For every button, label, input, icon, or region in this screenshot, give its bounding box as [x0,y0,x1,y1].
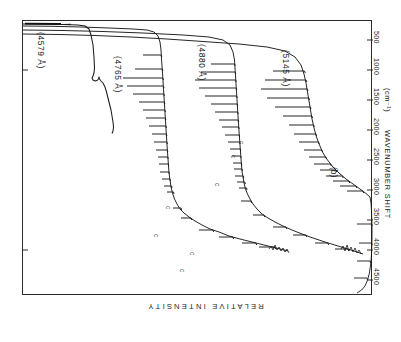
trace-4765 [23,26,288,251]
x-axis-units: (cm⁻¹) [383,88,392,112]
curve-label-4765: (4765 Å) [113,56,123,93]
x-tick-2000: 2000 [372,118,381,135]
curve-label-4880: (4880 Å) [197,44,207,81]
annotation-c-7: c [238,141,245,144]
x-tick-3500: 3500 [372,208,381,225]
left-border-ticks [23,70,28,250]
x-tick-500: 500 [372,31,381,44]
annotation-c-6: c [230,155,237,158]
x-tick-2500: 2500 [372,148,381,165]
panel-label: (b) [329,167,339,177]
x-tick-3000: 3000 [372,178,381,195]
x-tick-1500: 1500 [372,88,381,105]
annotation-c-3: c [179,269,186,272]
raman-spectra-figure: (4579 Å) (4765 Å) (4880 Å) (5145 Å) (b) … [0,0,401,342]
x-tick-4000: 4000 [372,238,381,255]
y-axis-title: RELATIVE INTENSITY [120,302,290,311]
curve-label-5145: (5145 Å) [281,50,291,87]
x-axis-title: WAVENUMBER SHIFT [383,130,392,219]
annotation-c-5: c [214,183,221,186]
x-tick-4500: 4500 [372,268,381,285]
annotation-c-4: c [189,252,196,255]
trace-5145-tail [354,197,372,293]
annotation-c-2: c [165,206,172,209]
x-tick-1000: 1000 [372,58,381,75]
curve-label-4579: (4579 Å) [36,32,46,69]
annotation-c-1: c [153,234,160,237]
